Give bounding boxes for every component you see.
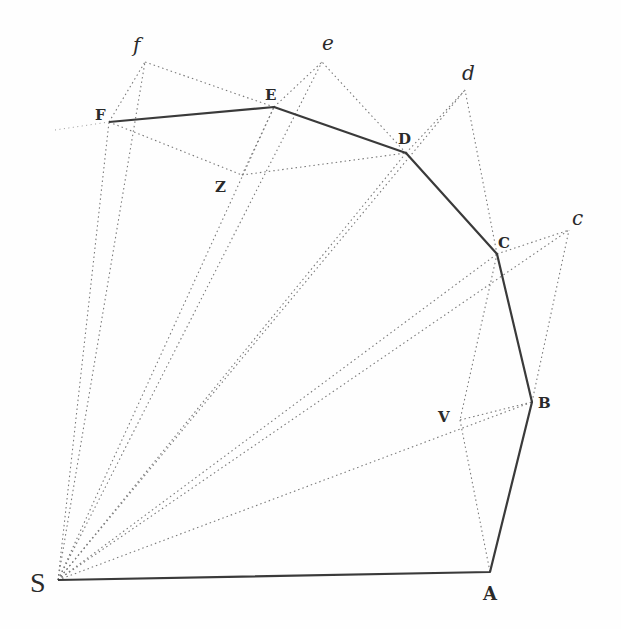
construction-lines	[55, 62, 569, 572]
radius-lines	[58, 62, 569, 580]
label-d: d	[462, 61, 475, 85]
label-e: e	[322, 31, 334, 55]
label-c: c	[572, 206, 583, 230]
orbit-polygon	[58, 107, 532, 580]
label-A: A	[482, 583, 498, 604]
label-E: E	[265, 86, 276, 104]
diagram-canvas: S A B C D E F V Z c d e f	[0, 0, 621, 629]
label-Z: Z	[215, 178, 226, 196]
point-labels: S A B C D E F V Z c d e f	[30, 31, 583, 604]
label-V: V	[437, 408, 450, 426]
label-C: C	[498, 234, 510, 252]
label-f: f	[131, 33, 144, 57]
label-D: D	[398, 130, 411, 148]
label-S: S	[30, 567, 46, 598]
label-F: F	[95, 106, 106, 124]
label-B: B	[538, 394, 551, 412]
